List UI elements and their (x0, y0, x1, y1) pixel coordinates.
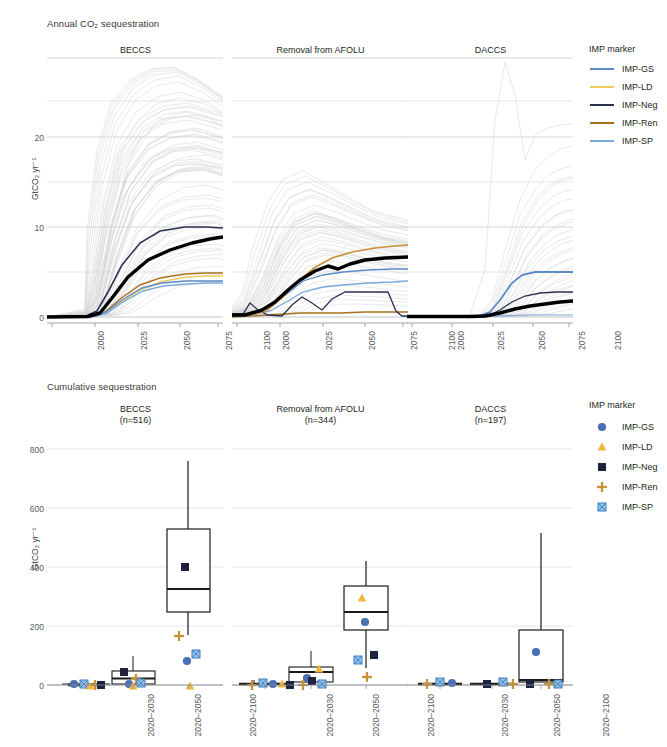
legend-label-imp-sp: IMP-SP (622, 502, 653, 512)
marker-imp-gs (183, 657, 191, 665)
marker-imp-gs (532, 648, 540, 656)
marker-imp-sp (554, 680, 562, 688)
bottom-xtick-beccs-1: 2020–2030 (146, 694, 156, 747)
bottom-xtick-beccs-3: 2020–2100 (248, 694, 258, 747)
marker-imp-sp (259, 679, 267, 687)
bottom-plots (0, 0, 667, 747)
marker-imp-ren (174, 631, 184, 641)
imp-gs-circle-icon (589, 420, 615, 434)
box-afolu-2020-2100 (344, 561, 388, 668)
marker-imp-gs (70, 680, 78, 688)
marker-imp-ren (422, 679, 432, 689)
bottom-facet-daccs (407, 449, 573, 689)
marker-imp-neg (120, 668, 128, 676)
marker-imp-ren (362, 672, 372, 682)
bottom-facet-beccs (47, 449, 223, 690)
bottom-xtick-afolu-3: 2020–2100 (426, 694, 436, 747)
bottom-xtick-daccs-2: 2020–2050 (552, 694, 562, 747)
legend-label-imp-neg: IMP-Neg (622, 462, 658, 472)
marker-imp-gs (269, 680, 277, 688)
figure-root: Annual CO₂ sequestration GtCO₂ yr⁻¹ BECC… (0, 0, 667, 747)
box-daccs-2020-2100 (519, 533, 563, 682)
legend-label-imp-ren: IMP-Ren (622, 482, 658, 492)
marker-imp-sp (137, 679, 145, 687)
box-beccs-2020-2050 (112, 656, 155, 685)
marker-imp-neg (483, 680, 491, 688)
legend-item-imp-ld-marker[interactable]: IMP-LD (589, 440, 653, 454)
legend-item-imp-neg-marker[interactable]: IMP-Neg (589, 460, 658, 474)
bottom-xtick-daccs-3: 2020–2100 (601, 694, 611, 747)
bottom-xtick-beccs-2: 2020–2050 (193, 694, 203, 747)
marker-imp-gs (448, 679, 456, 687)
marker-imp-neg (308, 677, 316, 685)
marker-imp-sp (354, 656, 362, 664)
bottom-xtick-afolu-1: 2020–2030 (325, 694, 335, 747)
bottom-legend-title: IMP marker (589, 400, 635, 410)
bottom-facet-afolu (232, 449, 408, 690)
box-beccs-2020-2100 (167, 461, 210, 635)
marker-imp-neg (526, 680, 534, 688)
marker-imp-sp (318, 680, 326, 688)
legend-item-imp-ren-marker[interactable]: IMP-Ren (589, 480, 658, 494)
marker-imp-neg (181, 563, 189, 571)
imp-ren-plus-icon (589, 480, 615, 494)
imp-ld-triangle-icon (589, 440, 615, 454)
legend-item-imp-gs-marker[interactable]: IMP-GS (589, 420, 654, 434)
marker-imp-gs (361, 618, 369, 626)
legend-label-imp-ld: IMP-LD (622, 442, 653, 452)
marker-imp-sp (192, 650, 200, 658)
marker-imp-sp (80, 680, 88, 688)
bottom-xtick-daccs-1: 2020–2030 (500, 694, 510, 747)
imp-neg-square-icon (589, 460, 615, 474)
legend-item-imp-sp-marker[interactable]: IMP-SP (589, 500, 653, 514)
legend-label-imp-gs: IMP-GS (622, 422, 654, 432)
marker-imp-neg (370, 651, 378, 659)
imp-sp-crossed-square-icon (589, 500, 615, 514)
bottom-xtick-afolu-2: 2020–2050 (371, 694, 381, 747)
marker-imp-ren (508, 679, 518, 689)
